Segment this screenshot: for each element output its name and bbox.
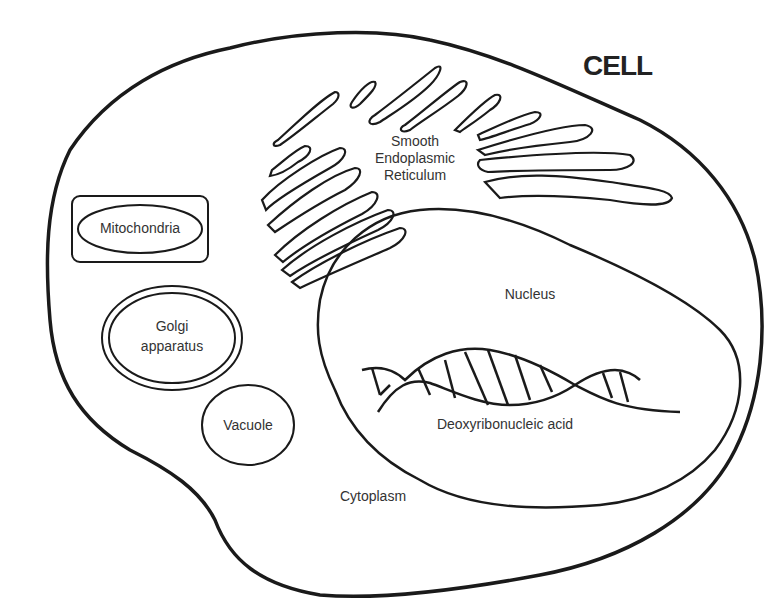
label-cytoplasm: Cytoplasm [328,488,418,505]
label-golgi: Golgi apparatus [122,318,222,355]
label-smooth-er-line1: Smooth [360,133,470,150]
label-smooth-er-line3: Reticulum [360,167,470,184]
dna-helix [362,349,680,412]
nucleus-membrane [318,209,740,507]
label-mitochondria: Mitochondria [80,220,200,237]
label-golgi-line1: Golgi [122,318,222,335]
cell-diagram [0,0,776,616]
cell-membrane [47,32,762,596]
label-smooth-er-line2: Endoplasmic [360,150,470,167]
label-nucleus: Nucleus [490,286,570,303]
label-vacuole: Vacuole [208,417,288,434]
label-dna: Deoxyribonucleic acid [410,416,600,433]
label-smooth-er: Smooth Endoplasmic Reticulum [360,133,470,184]
diagram-title: CELL [583,50,652,82]
label-golgi-line2: apparatus [122,338,222,355]
